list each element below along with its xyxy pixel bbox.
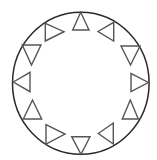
- triangle-group: [13, 12, 148, 154]
- triangle-up-icon: [122, 100, 138, 119]
- triangle-right-icon: [45, 23, 64, 41]
- triangle-right-icon: [131, 73, 148, 91]
- triangle-left-icon: [13, 72, 30, 91]
- triangle-down-icon: [22, 45, 41, 65]
- ring-diagram-svg: [0, 0, 157, 160]
- triangle-right-icon: [46, 125, 65, 144]
- triangle-left-icon: [98, 22, 114, 41]
- triangle-up-icon: [73, 12, 89, 30]
- triangle-down-icon: [72, 137, 90, 155]
- outer-circle: [13, 12, 150, 154]
- ring-diagram: [0, 0, 157, 160]
- triangle-down-icon: [121, 46, 140, 65]
- triangle-left-icon: [98, 123, 113, 144]
- triangle-up-icon: [23, 100, 41, 119]
